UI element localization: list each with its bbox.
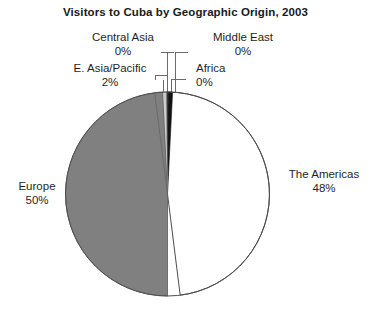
slice-label-east-asia-pacific-name: E. Asia/Pacific (45, 62, 175, 76)
chart-page: Visitors to Cuba by Geographic Origin, 2… (0, 0, 371, 310)
slice-label-africa-percent: 0% (196, 76, 266, 90)
slice-label-middle-east-percent: 0% (188, 45, 298, 59)
slice-label-central-asia: Central Asia 0% (63, 31, 183, 58)
slice-label-the-americas: The Americas 48% (278, 168, 370, 195)
pie-slice-the-americas[interactable] (168, 92, 270, 295)
slice-label-east-asia-pacific: E. Asia/Pacific 2% (45, 62, 175, 89)
slice-label-the-americas-percent: 48% (278, 182, 370, 196)
slice-label-east-asia-pacific-percent: 2% (45, 76, 175, 90)
slice-label-africa: Africa 0% (196, 62, 266, 89)
slice-label-the-americas-name: The Americas (278, 168, 370, 182)
slice-label-central-asia-percent: 0% (63, 45, 183, 59)
slice-label-middle-east: Middle East 0% (188, 31, 298, 58)
slice-label-europe-name: Europe (2, 180, 72, 194)
pie-chart (0, 0, 371, 310)
slice-label-europe: Europe 50% (2, 180, 72, 207)
pie-slices (66, 92, 270, 296)
slice-label-africa-name: Africa (196, 62, 266, 76)
slice-label-europe-percent: 50% (2, 194, 72, 208)
slice-label-central-asia-name: Central Asia (63, 31, 183, 45)
slice-label-middle-east-name: Middle East (188, 31, 298, 45)
pie-slice-europe[interactable] (66, 92, 168, 296)
